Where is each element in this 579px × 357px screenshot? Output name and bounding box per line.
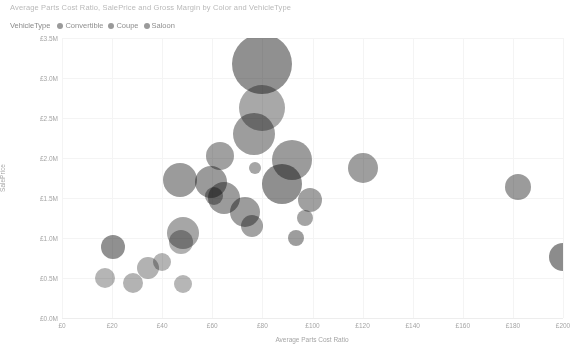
legend-swatch-icon	[57, 23, 63, 29]
data-point-bubble[interactable]	[205, 187, 223, 205]
legend-item-convertible[interactable]: Convertible	[57, 21, 103, 30]
data-point-bubble[interactable]	[241, 215, 263, 237]
legend-item-coupe[interactable]: Coupe	[108, 21, 138, 30]
data-point-bubble[interactable]	[174, 275, 192, 293]
data-point-bubble[interactable]	[298, 188, 322, 212]
x-axis-tick-label: £100	[305, 322, 319, 329]
x-axis-tick-label: £140	[405, 322, 419, 329]
data-point-bubble[interactable]	[233, 113, 275, 155]
x-axis-tick-label: £40	[157, 322, 168, 329]
data-point-bubble[interactable]	[163, 163, 197, 197]
y-axis-tick-label: £1.0M	[40, 235, 58, 242]
data-point-bubble[interactable]	[348, 153, 378, 183]
y-axis-tick-label: £0.0M	[40, 315, 58, 322]
plot-area	[62, 38, 563, 318]
legend-label: Saloon	[152, 21, 175, 30]
bubble-chart: Average Parts Cost Ratio, SalePrice and …	[0, 0, 579, 357]
x-axis-tick-label: £180	[506, 322, 520, 329]
x-axis-tick-label: £20	[107, 322, 118, 329]
data-point-bubble[interactable]	[297, 210, 313, 226]
data-point-bubble[interactable]	[169, 230, 193, 254]
legend-label: Convertible	[65, 21, 103, 30]
y-axis-tick-label: £2.0M	[40, 155, 58, 162]
data-point-bubble[interactable]	[249, 162, 261, 174]
y-axis-label: SalePrice	[0, 164, 6, 192]
y-axis-tick-label: £0.5M	[40, 275, 58, 282]
y-axis-tick-label: £3.5M	[40, 35, 58, 42]
x-axis-tick-label: £200	[556, 322, 570, 329]
data-point-bubble[interactable]	[262, 164, 302, 204]
legend-swatch-icon	[144, 23, 150, 29]
legend-swatch-icon	[108, 23, 114, 29]
y-axis-tick-label: £3.0M	[40, 75, 58, 82]
data-point-bubble[interactable]	[153, 253, 171, 271]
data-point-bubble[interactable]	[123, 273, 143, 293]
data-point-bubble[interactable]	[288, 230, 304, 246]
data-point-bubble[interactable]	[505, 174, 531, 200]
data-point-bubble[interactable]	[101, 235, 125, 259]
gridline-vertical	[563, 38, 564, 318]
x-axis-tick-label: £80	[257, 322, 268, 329]
x-axis-tick-label: £160	[456, 322, 470, 329]
bubble-layer	[62, 38, 563, 318]
legend-label: Coupe	[116, 21, 138, 30]
x-axis-tick-label: £120	[355, 322, 369, 329]
x-axis-tick-label: £0	[58, 322, 65, 329]
data-point-bubble[interactable]	[95, 268, 115, 288]
x-axis-label: Average Parts Cost Ratio	[275, 336, 348, 343]
y-axis-tick-label: £2.5M	[40, 115, 58, 122]
y-axis-tick-label: £1.5M	[40, 195, 58, 202]
legend-item-saloon[interactable]: Saloon	[144, 21, 175, 30]
x-axis-tick-label: £60	[207, 322, 218, 329]
data-point-bubble[interactable]	[549, 243, 563, 271]
y-axis-ticks: £0.0M£0.5M£1.0M£1.5M£2.0M£2.5M£3.0M£3.5M	[0, 0, 58, 357]
x-axis-line	[62, 318, 563, 319]
